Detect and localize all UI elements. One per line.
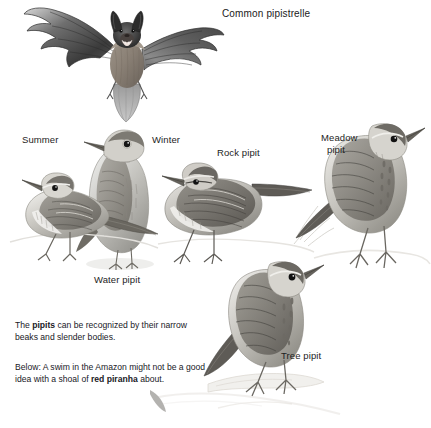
label-summer: Summer <box>22 134 59 146</box>
label-rock-pipit: Rock pipit <box>217 147 260 159</box>
pipits-caption: The pipits can be recognized by their na… <box>15 320 211 343</box>
field-guide-page: Common pipistrelle <box>0 0 431 428</box>
bottom-branch-decoration <box>150 388 390 428</box>
label-meadow-pipit-line1: Meadow <box>321 132 358 144</box>
label-water-pipit: Water pipit <box>94 274 140 286</box>
emphasis: red piranha <box>91 374 138 384</box>
piranha-caption: Below: A swim in the Amazon might not be… <box>15 362 211 385</box>
water-pipit-summer-illustration <box>8 168 168 278</box>
bat-illustration <box>18 2 228 124</box>
label-tree-pipit: Tree pipit <box>281 350 321 362</box>
label-meadow-pipit-line2: pipit <box>327 144 345 156</box>
meadow-pipit-illustration <box>290 118 431 278</box>
label-winter: Winter <box>152 134 180 146</box>
emphasis: pipits <box>32 320 55 330</box>
bat-title: Common pipistrelle <box>222 8 310 19</box>
